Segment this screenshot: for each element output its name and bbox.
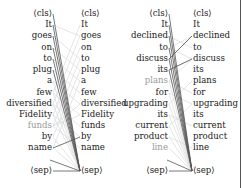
token: diversified bbox=[6, 98, 52, 109]
token: funds bbox=[81, 120, 105, 131]
token: its bbox=[193, 64, 204, 75]
token: name bbox=[81, 142, 105, 153]
token: to bbox=[43, 53, 52, 64]
token: declined bbox=[131, 30, 168, 41]
token: by bbox=[81, 131, 91, 142]
token: product bbox=[134, 131, 168, 142]
attention-links-right bbox=[121, 0, 242, 188]
token: to bbox=[81, 53, 90, 64]
token-sep: ⟨sep⟩ bbox=[146, 165, 168, 176]
token: its bbox=[193, 109, 204, 120]
token: goes bbox=[81, 30, 101, 41]
token: declined bbox=[193, 30, 230, 41]
token: It bbox=[81, 19, 88, 30]
token: plans bbox=[193, 75, 216, 86]
token: for bbox=[193, 87, 205, 98]
token: a bbox=[47, 75, 52, 86]
token: Fidelity bbox=[19, 109, 52, 120]
right-border-line bbox=[240, 0, 241, 188]
token: a bbox=[81, 75, 86, 86]
token: to bbox=[193, 42, 202, 53]
token-sep: ⟨sep⟩ bbox=[30, 165, 52, 176]
token: few bbox=[36, 87, 52, 98]
token: discuss bbox=[136, 53, 168, 64]
token: for bbox=[156, 87, 168, 98]
token: upgrading bbox=[123, 98, 168, 109]
token-cls: ⟨cls⟩ bbox=[33, 8, 52, 19]
token: current bbox=[135, 120, 168, 131]
token: product bbox=[193, 131, 227, 142]
token-cls: ⟨cls⟩ bbox=[193, 8, 212, 19]
token-sep: ⟨sep⟩ bbox=[193, 165, 215, 176]
token: It bbox=[193, 19, 200, 30]
token: discuss bbox=[193, 53, 225, 64]
token: on bbox=[81, 42, 92, 53]
token: current bbox=[193, 120, 226, 131]
token: goes bbox=[32, 30, 52, 41]
token-sep: ⟨sep⟩ bbox=[81, 165, 103, 176]
token-cls: ⟨cls⟩ bbox=[149, 8, 168, 19]
token: It bbox=[45, 19, 52, 30]
token: plug bbox=[33, 64, 52, 75]
attention-links-left bbox=[0, 0, 121, 188]
attention-panel-right: ⟨cls⟩ It declined to discuss its plans f… bbox=[121, 0, 242, 188]
token: name bbox=[28, 142, 52, 153]
attention-panel-left: ⟨cls⟩ It goes on to plug a few diversifi… bbox=[0, 0, 121, 188]
token: diversified bbox=[81, 98, 127, 109]
token: few bbox=[81, 87, 97, 98]
token: on bbox=[41, 42, 52, 53]
token: It bbox=[161, 19, 168, 30]
token: by bbox=[42, 131, 52, 142]
token-cls: ⟨cls⟩ bbox=[81, 8, 100, 19]
token-highlighted: plans bbox=[145, 75, 168, 86]
token: line bbox=[193, 142, 209, 153]
token: upgrading bbox=[193, 98, 238, 109]
token: Fidelity bbox=[81, 109, 114, 120]
token: its bbox=[157, 109, 168, 120]
token-highlighted: line bbox=[152, 142, 168, 153]
token: to bbox=[159, 42, 168, 53]
token-highlighted: funds bbox=[28, 120, 52, 131]
token: its bbox=[157, 64, 168, 75]
token: plug bbox=[81, 64, 100, 75]
